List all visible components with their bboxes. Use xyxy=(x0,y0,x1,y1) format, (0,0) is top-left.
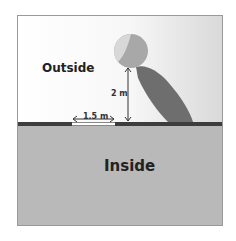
light-shadow xyxy=(136,66,193,122)
inside-label: Inside xyxy=(104,157,155,175)
ball-height-label: 2 m xyxy=(111,89,128,98)
diagram-frame: Outside Inside 1.5 m 2 m xyxy=(17,15,223,226)
outside-label: Outside xyxy=(42,61,94,75)
opening-width-label: 1.5 m xyxy=(83,112,108,121)
diagram-graphics xyxy=(18,16,223,226)
